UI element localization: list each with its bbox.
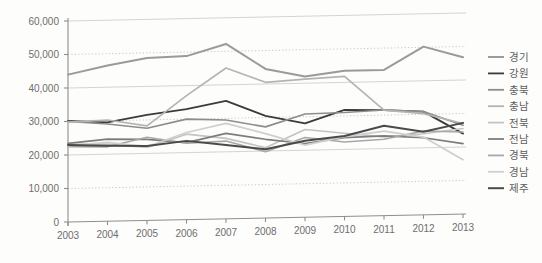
- y-axis-tick-label: 30,000: [28, 116, 59, 127]
- gridline: [68, 113, 466, 121]
- x-axis-tick-label: 2008: [254, 226, 277, 237]
- x-axis-tick-label: 2005: [136, 228, 159, 239]
- x-axis-tick-label: 2007: [215, 227, 238, 238]
- x-axis-tick-label: 2004: [96, 229, 119, 240]
- x-axis-tick-label: 2013: [452, 222, 475, 233]
- legend-label-경북[interactable]: 경북: [509, 149, 529, 161]
- y-axis-tick-label: 20,000: [28, 150, 59, 161]
- x-axis-line: [68, 214, 466, 222]
- legend-label-경기[interactable]: 경기: [509, 51, 529, 63]
- legend-label-충남[interactable]: 충남: [509, 100, 529, 112]
- gridline: [68, 46, 466, 54]
- chart-canvas: 010,00020,00030,00040,00050,00060,000 20…: [0, 0, 542, 263]
- gridline: [68, 180, 466, 188]
- gridline: [68, 13, 466, 21]
- line-chart-figure: 010,00020,00030,00040,00050,00060,000 20…: [0, 0, 542, 263]
- data-series-lines: [68, 44, 463, 160]
- gridline: [68, 80, 466, 88]
- series-line-경기: [68, 44, 463, 77]
- x-axis-tick-label: 2010: [333, 224, 356, 235]
- legend-label-제주[interactable]: 제주: [509, 182, 529, 194]
- gridlines: [68, 13, 466, 189]
- x-axis-tick-label: 2011: [373, 224, 395, 235]
- x-axis-tick-labels: 2003200420052006200720082009201020112012…: [57, 214, 475, 241]
- x-axis-tick-label: 2009: [294, 225, 317, 236]
- x-axis-tick-label: 2003: [57, 230, 80, 241]
- y-axis-tick-labels: 010,00020,00030,00040,00050,00060,000: [28, 16, 68, 228]
- legend-label-경남[interactable]: 경남: [509, 166, 529, 178]
- chart-legend: 경기강원충북충남전북전남경북경남제주: [488, 51, 529, 194]
- legend-label-전북[interactable]: 전북: [509, 117, 529, 129]
- y-axis-tick-label: 10,000: [28, 183, 59, 194]
- legend-label-전남[interactable]: 전남: [509, 133, 529, 145]
- y-axis-tick-label: 60,000: [28, 16, 59, 27]
- y-axis-tick-label: 40,000: [28, 83, 59, 94]
- y-axis-tick-label: 0: [53, 217, 59, 228]
- x-axis-tick-label: 2006: [175, 228, 198, 239]
- legend-label-강원[interactable]: 강원: [509, 67, 529, 79]
- x-axis-tick-label: 2012: [412, 223, 435, 234]
- axes: [68, 18, 466, 226]
- y-axis-tick-label: 50,000: [28, 49, 59, 60]
- legend-label-충북[interactable]: 충북: [509, 84, 529, 96]
